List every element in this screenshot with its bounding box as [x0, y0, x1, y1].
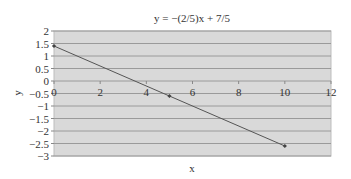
- x-tick-label: 2: [97, 86, 103, 98]
- x-tick-label: 10: [279, 86, 291, 98]
- y-tick-label: −1: [37, 100, 49, 112]
- x-axis-label: x: [189, 162, 195, 174]
- x-tick-label: 8: [236, 86, 242, 98]
- y-tick-label: −2: [37, 125, 49, 137]
- y-axis-label: y: [11, 90, 23, 96]
- y-tick-label: 2: [44, 25, 50, 37]
- x-tick-label: 6: [190, 86, 196, 98]
- y-tick-label: 1: [44, 50, 50, 62]
- y-tick-label: 1.5: [35, 38, 49, 50]
- chart-title: y = −(2/5)x + 7/5: [154, 12, 231, 25]
- y-tick-label: −0.5: [29, 88, 49, 100]
- line-chart: y = −(2/5)x + 7/5 21.510.50−0.5−1−1.5−2−…: [0, 0, 351, 179]
- x-tick-label: 4: [144, 86, 150, 98]
- x-tick-label: 0: [51, 86, 57, 98]
- plot-area: 21.510.50−0.5−1−1.5−2−2.5−3024681012: [29, 25, 336, 162]
- y-tick-label: −3: [37, 150, 49, 162]
- y-tick-label: −1.5: [29, 113, 49, 125]
- y-tick-label: −2.5: [29, 138, 49, 150]
- x-tick-label: 12: [326, 86, 337, 98]
- y-tick-label: 0.5: [35, 63, 49, 75]
- y-tick-label: 0: [44, 75, 50, 87]
